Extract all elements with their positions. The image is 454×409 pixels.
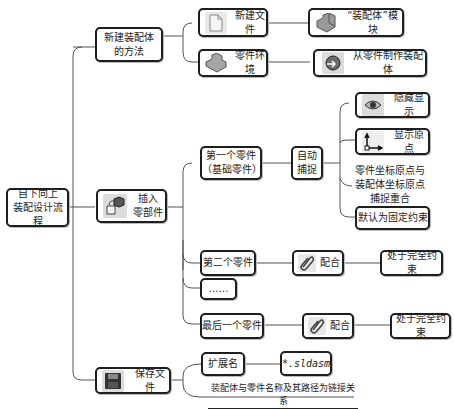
new-file-node[interactable]: 新建文件	[198, 8, 268, 37]
assembly-module-icon	[315, 12, 337, 34]
first-part-label: 第一个零件 （基础零件）	[202, 149, 260, 177]
save-floppy-icon	[102, 370, 124, 392]
auto-capture-node[interactable]: 自动 捕捉	[291, 146, 323, 180]
last-fully-constrained-label: 处于完全约束	[392, 312, 449, 340]
hide-show-label: 隐藏显示	[390, 91, 428, 119]
origin-coincide-note: 零件坐标原点与 装配体坐标原点 捕捉重合	[350, 164, 430, 206]
second-fully-constrained-label: 处于完全约束	[382, 249, 441, 277]
show-origin-axes-icon	[362, 131, 384, 153]
first-part-node[interactable]: 第一个零件 （基础零件）	[200, 146, 262, 180]
last-fully-constrained-node[interactable]: 处于完全约束	[390, 313, 451, 339]
assembly-module-label: “装配体”模块	[343, 9, 402, 37]
insert-components-label: 插入 零部件	[133, 192, 163, 220]
make-assembly-from-part-node[interactable]: 从零件制作装配体	[313, 49, 427, 77]
auto-capture-label: 自动 捕捉	[297, 149, 317, 177]
last-part-label: 最后一个零件	[202, 319, 262, 333]
part-environment-node[interactable]: 零件环境	[198, 49, 268, 77]
extension-value-node[interactable]: *.sldasm	[280, 351, 332, 376]
extension-value: *.sldasm	[282, 357, 330, 371]
mate-paperclip-icon	[308, 317, 326, 335]
second-mate-label: 配合	[320, 256, 340, 270]
last-mate-label: 配合	[330, 319, 350, 333]
root-label: 自下向上 装配设计流程	[8, 187, 67, 229]
show-origin-node[interactable]: 显示原点	[355, 128, 430, 155]
insert-components-icon	[103, 194, 127, 218]
default-fixed-constraint-node[interactable]: 默认为固定约束	[355, 206, 430, 230]
save-file-label: 保存文件	[130, 367, 169, 395]
second-fully-constrained-node[interactable]: 处于完全约束	[380, 250, 443, 276]
show-origin-label: 显示原点	[390, 128, 428, 156]
new-file-icon	[205, 12, 227, 34]
mate-paperclip-icon	[298, 254, 316, 272]
part-environment-label: 零件环境	[233, 49, 266, 77]
insert-components-node[interactable]: 插入 零部件	[96, 189, 167, 223]
hide-show-eye-icon	[362, 94, 384, 116]
assembly-module-node[interactable]: “装配体”模块	[308, 8, 404, 37]
part-environment-icon	[205, 52, 227, 74]
make-assembly-from-part-label: 从零件制作装配体	[350, 49, 425, 77]
last-mate-node[interactable]: 配合	[302, 313, 354, 339]
new-file-label: 新建文件	[233, 9, 266, 37]
ellipsis-node[interactable]: ……	[200, 278, 237, 300]
new-assembly-method-label: 新建装配体 的方法	[104, 31, 154, 59]
new-assembly-method-node[interactable]: 新建装配体 的方法	[95, 27, 163, 62]
second-mate-node[interactable]: 配合	[292, 250, 344, 276]
root-node[interactable]: 自下向上 装配设计流程	[6, 188, 69, 227]
last-part-node[interactable]: 最后一个零件	[200, 313, 264, 339]
save-file-node[interactable]: 保存文件	[95, 367, 171, 394]
link-relation-note: 装配体与零件名称及其路径为链接关系	[208, 382, 358, 409]
ellipsis-label: ……	[209, 282, 229, 296]
default-fixed-constraint-label: 默认为固定约束	[358, 211, 428, 225]
extension-name-label: 扩展名	[208, 357, 238, 371]
second-part-label: 第二个零件	[203, 256, 253, 270]
hide-show-node[interactable]: 隐藏显示	[355, 92, 430, 118]
extension-name-node[interactable]: 扩展名	[201, 352, 245, 376]
second-part-node[interactable]: 第二个零件	[200, 250, 256, 276]
make-assembly-from-part-icon	[322, 52, 344, 74]
